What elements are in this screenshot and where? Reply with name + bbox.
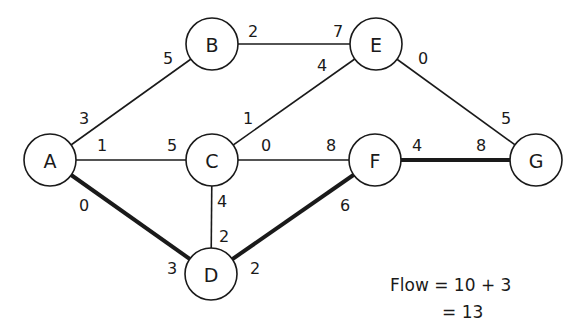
node-label: C	[205, 150, 218, 172]
edge-label-ac-start: 1	[97, 136, 107, 155]
node-c: C	[186, 134, 238, 186]
node-label: E	[370, 34, 382, 56]
node-label: G	[529, 150, 544, 172]
edge-label-ce-start: 1	[243, 109, 253, 128]
node-label: A	[44, 150, 57, 172]
edge-label-be-start: 2	[248, 22, 258, 41]
edge-label-ab-end: 5	[163, 49, 173, 68]
edge-label-ac-end: 5	[167, 136, 177, 155]
edge-a-b	[50, 44, 212, 160]
edge-label-fg-end: 8	[476, 136, 486, 155]
flow-equation-line2: = 13	[442, 302, 483, 322]
node-g: G	[510, 134, 562, 186]
node-label: B	[205, 34, 218, 56]
edge-label-ce-end: 4	[317, 56, 327, 75]
node-b: B	[186, 18, 238, 70]
edge-label-cf-start: 0	[261, 136, 271, 155]
edge-label-eg-start: 0	[418, 49, 428, 68]
node-e: E	[350, 18, 402, 70]
edge-label-df-end: 6	[340, 196, 350, 215]
edge-label-ad-end: 3	[167, 259, 177, 278]
edge-label-be-end: 7	[333, 22, 343, 41]
edge-label-ab-start: 3	[79, 109, 89, 128]
edge-label-cf-end: 8	[326, 136, 336, 155]
node-d: D	[185, 248, 237, 300]
edge-label-cd-end: 2	[219, 227, 229, 246]
edge-d-f	[211, 160, 375, 274]
edge-label-ad-start: 0	[79, 196, 89, 215]
edge-label-fg-start: 4	[412, 136, 422, 155]
edge-a-d	[50, 160, 211, 274]
node-a: A	[24, 134, 76, 186]
node-label: D	[204, 264, 219, 286]
edge-label-df-start: 2	[250, 259, 260, 278]
node-f: F	[349, 134, 401, 186]
edge-label-eg-end: 5	[501, 109, 511, 128]
edge-label-cd-start: 4	[217, 192, 227, 211]
edge-e-g	[376, 44, 536, 160]
edge-c-e	[212, 44, 376, 160]
flow-result: = 13	[442, 262, 483, 322]
node-label: F	[370, 150, 381, 172]
